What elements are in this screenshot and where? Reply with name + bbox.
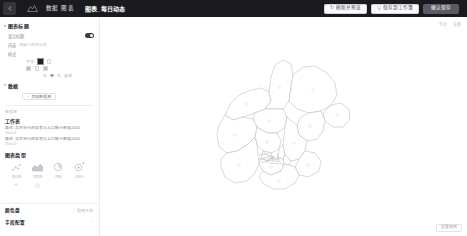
- settings-sidebar: ▾ 图表标题 显示标题 内容 请输入图表标题 样式 字体: [0, 17, 100, 236]
- save-icon: 🖫: [377, 6, 381, 11]
- custom-chart-icon: [73, 162, 86, 173]
- confirm-save-label: 确认保存: [431, 6, 451, 11]
- pie-chart-icon: [52, 162, 65, 173]
- worksheet-entry-2[interactable]: 路径: 北京市行政区划与人口统计数据2024 Sheet2: [0, 136, 99, 147]
- worksheet-sheet-1: Sheet1: [5, 131, 94, 136]
- align-auto-option[interactable]: 自动: [64, 73, 72, 78]
- menu-item-chart[interactable]: 图表: [61, 6, 73, 12]
- area-chart-caption: 面积图: [33, 174, 42, 179]
- chevron-down-icon-data: ▾: [4, 83, 6, 87]
- section-title-data: 数据: [8, 82, 18, 89]
- label-title-content: 内容: [8, 42, 16, 48]
- add-chart-icon: +: [11, 180, 22, 189]
- title-align-segment: 左 中 右 自动: [0, 72, 99, 80]
- chart-editor-app: 数据 图表 图表_每日动态 ↻ 刷新并预览 🖫 保存到工作簿 确认保存 ▾: [0, 0, 467, 236]
- color-theme-value-text: 跟随主题: [77, 207, 93, 213]
- align-right-option[interactable]: 右: [57, 73, 61, 78]
- more-chart-icon: ◎: [32, 180, 43, 189]
- color-theme-value: › 跟随主题: [74, 207, 93, 213]
- section-color-theme[interactable]: 颜色盘 › 跟随主题: [0, 203, 99, 216]
- menu-item-data[interactable]: 数据: [46, 6, 58, 12]
- chevron-down-icon: ▾: [4, 24, 6, 28]
- section-field-config[interactable]: 字段配置 ›: [0, 216, 99, 228]
- swatch-dark[interactable]: [38, 59, 43, 64]
- chart-type-icons-row2: + ◎: [0, 179, 99, 189]
- app-header: 数据 图表 图表_每日动态 ↻ 刷新并预览 🖫 保存到工作簿 确认保存: [0, 0, 467, 17]
- add-data-source-button[interactable]: + 添加数据源: [22, 93, 56, 101]
- worksheet-entry-1[interactable]: 路径: 北京市行政区划与人口统计数据2024 Sheet1: [0, 125, 99, 136]
- section-title-chart-title: 图表标题: [8, 22, 29, 29]
- swatch-light-2[interactable]: [35, 66, 40, 71]
- app-logo-icon: [26, 4, 38, 14]
- show-title-toggle[interactable]: [85, 33, 94, 38]
- swatch-group-label: 字体: [26, 59, 34, 64]
- chart-type-icons: 散点图 面积图: [0, 160, 99, 179]
- scatter-chart-caption: 散点图: [12, 174, 21, 179]
- add-data-source-label: 添加数据源: [31, 95, 51, 99]
- page-title: 图表_每日动态: [85, 4, 126, 13]
- chart-type-more[interactable]: ◎: [27, 180, 47, 189]
- section-header-chart-title[interactable]: ▾ 图表标题: [0, 20, 99, 31]
- section-header-data[interactable]: ▾ 数据: [0, 80, 99, 91]
- label-show-title: 显示标题: [8, 33, 24, 39]
- chart-type-area[interactable]: 面积图: [27, 162, 47, 179]
- chart-type-title: 图表类型: [0, 147, 99, 160]
- chevron-right-icon-field: ›: [92, 219, 93, 224]
- add-data-source-row: + 添加数据源: [0, 91, 99, 103]
- row-title-style: 样式: [0, 49, 99, 58]
- refresh-icon: ↻: [330, 6, 334, 11]
- chart-type-pie[interactable]: 饼图: [48, 162, 68, 179]
- scatter-chart-icon: [10, 162, 23, 173]
- label-title-style: 样式: [8, 51, 16, 57]
- pie-chart-caption: 饼图: [55, 174, 61, 179]
- title-style-swatches: 字体: [0, 58, 99, 65]
- data-source-label: 数据源: [0, 108, 99, 115]
- row-title-content: 内容 请输入图表标题: [0, 40, 99, 49]
- plus-icon: +: [27, 95, 29, 99]
- row-show-title: 显示标题: [0, 31, 99, 40]
- worksheet-sheet-2: Sheet2: [5, 142, 94, 147]
- swatch-light[interactable]: [47, 59, 52, 64]
- align-left-option[interactable]: 左: [43, 73, 47, 78]
- back-button[interactable]: [3, 2, 16, 15]
- area-chart-icon: [31, 162, 44, 173]
- save-to-workbook-label: 保存到工作簿: [383, 6, 413, 11]
- refresh-preview-label: 刷新并预览: [336, 6, 361, 11]
- worksheet-block-title: 工作表: [0, 115, 99, 126]
- swatch-mid-2[interactable]: [43, 66, 48, 71]
- title-content-input[interactable]: 请输入图表标题: [19, 42, 47, 47]
- color-theme-title: 颜色盘: [5, 207, 20, 213]
- align-center-option[interactable]: 中: [50, 73, 54, 78]
- app-body: ▾ 图表标题 显示标题 内容 请输入图表标题 样式 字体: [0, 17, 467, 236]
- chart-type-scatter[interactable]: 散点图: [6, 162, 26, 179]
- confirm-save-button[interactable]: 确认保存: [423, 4, 459, 14]
- save-to-workbook-button[interactable]: 🖫 保存到工作簿: [371, 4, 419, 14]
- chart-type-add[interactable]: +: [6, 180, 26, 189]
- swatch-mid[interactable]: [26, 66, 31, 71]
- refresh-preview-button[interactable]: ↻ 刷新并预览: [324, 4, 367, 14]
- map-container[interactable]: [100, 17, 467, 236]
- chart-type-custom[interactable]: 自定义: [69, 162, 89, 179]
- chart-preview-canvas: 导出 设置: [100, 17, 467, 236]
- header-actions: ↻ 刷新并预览 🖫 保存到工作簿 确认保存: [324, 4, 463, 14]
- data-divider: [5, 105, 94, 106]
- reset-view-button[interactable]: 重置视图: [436, 224, 462, 232]
- custom-chart-caption: 自定义: [75, 174, 84, 179]
- field-config-title: 字段配置: [5, 219, 25, 225]
- beijing-districts-map[interactable]: [209, 57, 359, 197]
- chevron-right-icon-theme: ›: [74, 207, 75, 212]
- header-menu: 数据 图表: [46, 6, 74, 12]
